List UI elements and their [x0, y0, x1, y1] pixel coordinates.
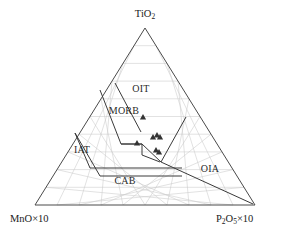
axis-label-bottom-right: P2O5×10	[216, 213, 253, 226]
axis-label-bottom-left: MnO×10	[10, 213, 49, 224]
boundary-morb-oia-v	[142, 117, 186, 162]
field-label-oia: OIA	[201, 163, 220, 174]
grid-lines	[46, 46, 244, 205]
field-label-oit: OIT	[132, 83, 149, 94]
boundary-morb-box-bottom	[121, 144, 160, 162]
boundary-iat-morb-link	[75, 133, 182, 168]
data-point-marker	[134, 140, 140, 146]
ternary-diagram: OITMORBIATCABOIA TiO2 MnO×10 P2O5×10	[0, 0, 288, 235]
field-labels: OITMORBIATCABOIA	[74, 83, 220, 186]
field-label-morb: MORB	[109, 105, 139, 116]
field-label-cab: CAB	[114, 175, 135, 186]
axis-labels: TiO2 MnO×10 P2O5×10	[10, 8, 253, 226]
field-label-iat: IAT	[74, 144, 90, 155]
axis-label-apex: TiO2	[135, 8, 156, 21]
ternary-plot-svg: OITMORBIATCABOIA TiO2 MnO×10 P2O5×10	[0, 0, 288, 235]
